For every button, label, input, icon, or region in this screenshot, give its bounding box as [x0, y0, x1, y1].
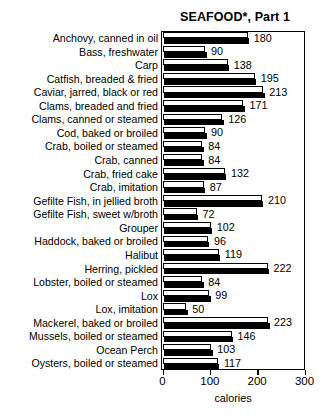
- bar-shadow-face: [164, 282, 204, 288]
- bar: [163, 276, 203, 288]
- bar: [163, 168, 225, 180]
- bar-shadow-face: [164, 364, 219, 370]
- bar-value-label: 84: [208, 275, 220, 289]
- bar: [163, 46, 206, 58]
- bar-value-label: 90: [211, 125, 223, 139]
- bar-rows-container: Anchovy, canned in oil180Bass, freshwate…: [0, 31, 330, 370]
- bar-shadow-face: [164, 38, 249, 44]
- seafood-calories-bar-chart: SEAFOOD*, Part 1 Anchovy, canned in oil1…: [0, 0, 330, 420]
- bar: [163, 195, 262, 207]
- bar: [163, 59, 228, 71]
- x-axis-tick-label: 0: [143, 375, 183, 387]
- category-label: Herring, pickled: [0, 262, 158, 276]
- bar: [163, 290, 210, 302]
- category-label: Gefilte Fish, in jellied broth: [0, 194, 158, 208]
- bar-value-label: 210: [268, 193, 286, 207]
- category-label: Catfish, breaded & fried: [0, 72, 158, 86]
- bar-value-label: 72: [203, 207, 215, 221]
- bar-value-label: 138: [234, 58, 252, 72]
- bar-value-label: 119: [225, 247, 242, 261]
- bar: [163, 236, 208, 248]
- bar: [163, 249, 219, 261]
- category-label: Clams, canned or steamed: [0, 112, 158, 126]
- category-label: Crab, fried cake: [0, 167, 158, 181]
- bar: [163, 222, 211, 234]
- bar-shadow-face: [164, 255, 220, 261]
- category-label: Anchovy, canned in oil: [0, 31, 158, 45]
- bar-value-label: 87: [210, 180, 222, 194]
- bar: [163, 344, 212, 356]
- bar: [163, 208, 197, 220]
- category-label: Haddock, baked or broiled: [0, 234, 158, 248]
- category-label: Gefilte Fish, sweet w/broth: [0, 207, 158, 221]
- chart-title: SEAFOOD*, Part 1: [165, 10, 305, 24]
- bar: [163, 154, 203, 166]
- bar: [163, 141, 203, 153]
- bar-value-label: 126: [228, 112, 246, 126]
- category-label: Oysters, boiled or steamed: [0, 356, 158, 370]
- bar-value-label: 84: [208, 139, 220, 153]
- bar-value-label: 117: [224, 356, 241, 370]
- bar: [163, 263, 268, 275]
- category-label: Lox, imitation: [0, 302, 158, 316]
- x-axis-tick-label: 300: [285, 375, 325, 387]
- x-axis: calories 0100200300: [161, 370, 305, 416]
- bar-shadow-face: [164, 228, 212, 234]
- bar-shadow-face: [164, 65, 229, 71]
- bar-value-label: 223: [274, 315, 292, 329]
- bar-shadow-face: [164, 188, 205, 194]
- bar-shadow-face: [164, 79, 256, 85]
- bar: [163, 86, 264, 98]
- bar-value-label: 102: [217, 220, 235, 234]
- bar-value-label: 103: [217, 342, 235, 356]
- bar-value-label: 222: [274, 261, 292, 275]
- category-label: Clams, breaded and fried: [0, 99, 158, 113]
- category-label: Grouper: [0, 221, 158, 235]
- bar-value-label: 195: [261, 71, 279, 85]
- bar: [163, 303, 187, 315]
- bar-shadow-face: [164, 52, 207, 58]
- category-label: Crab, boiled or steamed: [0, 139, 158, 153]
- category-label: Mackerel, baked or broiled: [0, 316, 158, 330]
- bar: [163, 358, 218, 370]
- bar: [163, 73, 255, 85]
- bar-value-label: 96: [214, 234, 226, 248]
- bar-value-label: 213: [269, 85, 287, 99]
- category-label: Caviar, jarred, black or red: [0, 85, 158, 99]
- bar-shadow-face: [164, 147, 204, 153]
- category-label: Lobster, boiled or steamed: [0, 275, 158, 289]
- bar-value-label: 180: [254, 31, 272, 45]
- bar-shadow-face: [164, 242, 209, 248]
- bar-value-label: 99: [215, 288, 227, 302]
- bar-shadow-face: [164, 133, 207, 139]
- bar-value-label: 50: [192, 302, 204, 316]
- category-label: Mussels, boiled or steamed: [0, 329, 158, 343]
- category-label: Carp: [0, 58, 158, 72]
- category-label: Crab, canned: [0, 153, 158, 167]
- bar-value-label: 84: [208, 153, 220, 167]
- bar-value-label: 146: [238, 329, 256, 343]
- bar: [163, 181, 204, 193]
- x-axis-tick-label: 200: [237, 375, 277, 387]
- bar: [163, 317, 269, 329]
- bar-shadow-face: [164, 310, 188, 316]
- bar: [163, 331, 232, 343]
- bar-shadow-face: [164, 215, 198, 221]
- bar: [163, 114, 223, 126]
- category-label: Crab, imitation: [0, 180, 158, 194]
- bar-shadow-face: [164, 350, 213, 356]
- category-label: Halibut: [0, 248, 158, 262]
- bar: [163, 100, 244, 112]
- category-label: Ocean Perch: [0, 343, 158, 357]
- category-label: Cod, baked or broiled: [0, 126, 158, 140]
- category-label: Lox: [0, 289, 158, 303]
- bar-shadow-face: [164, 160, 204, 166]
- x-axis-tick-label: 100: [190, 375, 230, 387]
- bar-value-label: 132: [231, 166, 249, 180]
- bar-value-label: 171: [249, 98, 267, 112]
- x-axis-label: calories: [161, 392, 305, 404]
- category-label: Bass, freshwater: [0, 45, 158, 59]
- bar: [163, 127, 206, 139]
- bar-value-label: 90: [211, 44, 223, 58]
- bar: [163, 32, 248, 44]
